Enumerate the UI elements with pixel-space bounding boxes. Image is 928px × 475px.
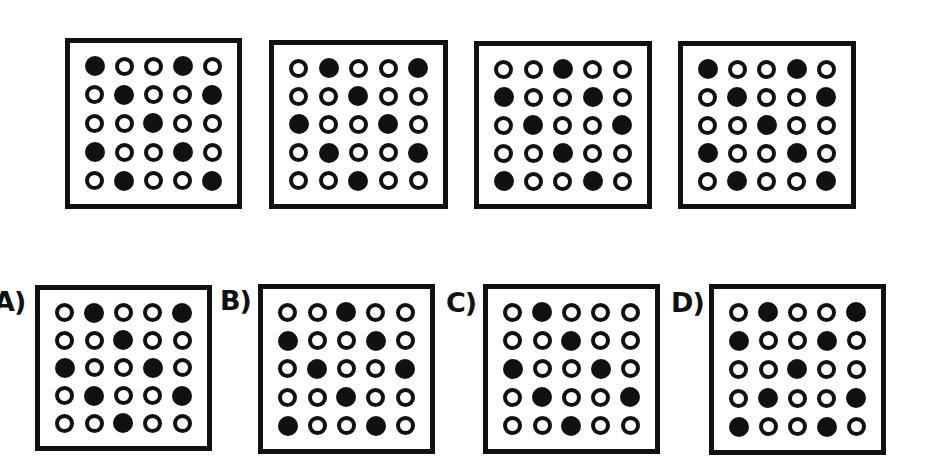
empty-circle-icon — [533, 359, 552, 378]
grid-cell — [302, 412, 331, 440]
grid-cell — [344, 82, 374, 110]
grid-cell — [548, 139, 578, 167]
empty-circle-icon — [494, 60, 513, 79]
grid-cell — [273, 355, 302, 383]
grid-cell — [403, 82, 433, 110]
option-d-grid[interactable] — [709, 284, 886, 455]
empty-circle-icon — [787, 88, 806, 107]
empty-circle-icon — [613, 172, 632, 191]
empty-circle-icon — [278, 388, 297, 407]
grid-cell — [723, 167, 753, 195]
filled-circle-icon — [523, 115, 543, 135]
grid-cell — [578, 55, 608, 83]
grid-cell — [724, 355, 753, 384]
grid-cell — [138, 299, 167, 327]
grid-cell — [79, 327, 108, 355]
empty-circle-icon — [143, 303, 162, 322]
empty-circle-icon — [278, 303, 297, 322]
empty-circle-icon — [379, 59, 398, 78]
grid-cell — [842, 412, 871, 441]
grid-cell — [273, 326, 302, 354]
empty-circle-icon — [319, 87, 338, 106]
grid-cell — [109, 409, 138, 437]
grid-cell — [332, 326, 361, 354]
grid-cell — [284, 110, 314, 138]
empty-circle-icon — [591, 331, 610, 350]
grid-cell — [302, 383, 331, 411]
filled-circle-icon — [757, 115, 777, 135]
empty-circle-icon — [847, 331, 866, 350]
empty-circle-icon — [562, 359, 581, 378]
grid-cell — [109, 327, 138, 355]
grid-cell — [314, 54, 344, 82]
grid-cell — [79, 299, 108, 327]
filled-circle-icon — [85, 142, 105, 162]
filled-circle-icon — [583, 87, 603, 107]
filled-circle-icon — [278, 331, 298, 351]
grid-cell — [586, 298, 615, 326]
filled-circle-icon — [787, 143, 807, 163]
empty-circle-icon — [349, 59, 368, 78]
grid-cell — [811, 167, 841, 195]
sequence-grid-1 — [65, 38, 242, 209]
filled-circle-icon — [172, 386, 192, 406]
grid-cell — [498, 298, 527, 326]
grid-cell — [519, 55, 549, 83]
grid-cell — [498, 383, 527, 411]
grid-cell — [752, 111, 782, 139]
grid-cell — [109, 81, 138, 110]
empty-circle-icon — [757, 144, 776, 163]
grid-cell — [284, 82, 314, 110]
filled-circle-icon — [846, 388, 866, 408]
filled-circle-icon — [143, 358, 163, 378]
empty-circle-icon — [409, 87, 428, 106]
grid-cell — [168, 409, 197, 437]
grid-cell — [782, 111, 812, 139]
empty-circle-icon — [817, 389, 836, 408]
grid-cell — [548, 55, 578, 83]
grid-cell — [783, 384, 812, 413]
grid-cell — [344, 139, 374, 167]
empty-circle-icon — [729, 360, 748, 379]
grid-cell — [782, 139, 812, 167]
grid-cell — [842, 298, 871, 327]
empty-circle-icon — [143, 414, 162, 433]
grid-cell — [168, 81, 197, 110]
filled-circle-icon — [395, 359, 415, 379]
grid-cell — [616, 298, 645, 326]
grid-cell — [753, 355, 782, 384]
empty-circle-icon — [349, 115, 368, 134]
filled-circle-icon — [366, 416, 386, 436]
option-c-grid[interactable] — [483, 284, 660, 454]
empty-circle-icon — [817, 303, 836, 322]
grid-cell — [616, 326, 645, 354]
filled-circle-icon — [114, 85, 134, 105]
empty-circle-icon — [621, 359, 640, 378]
grid-cell — [753, 412, 782, 441]
filled-circle-icon — [817, 417, 837, 437]
grid-cell — [80, 138, 109, 167]
sequence-grid-4 — [678, 41, 856, 209]
empty-circle-icon — [85, 85, 104, 104]
grid-cell — [361, 326, 390, 354]
option-a-grid[interactable] — [35, 285, 212, 451]
filled-circle-icon — [55, 358, 75, 378]
grid-cell — [361, 355, 390, 383]
filled-circle-icon — [202, 85, 222, 105]
grid-cell — [109, 52, 138, 81]
grid-cell — [783, 298, 812, 327]
empty-circle-icon — [757, 88, 776, 107]
empty-circle-icon — [524, 60, 543, 79]
grid-cell — [314, 82, 344, 110]
grid-cell — [489, 111, 519, 139]
grid-cell — [782, 167, 812, 195]
filled-circle-icon — [729, 417, 749, 437]
grid-cell — [783, 327, 812, 356]
filled-circle-icon — [113, 413, 133, 433]
filled-circle-icon — [319, 58, 339, 78]
option-b-grid[interactable] — [258, 284, 435, 454]
filled-circle-icon — [727, 171, 747, 191]
grid-cell — [723, 139, 753, 167]
grid-cell — [50, 299, 79, 327]
filled-circle-icon — [758, 388, 778, 408]
